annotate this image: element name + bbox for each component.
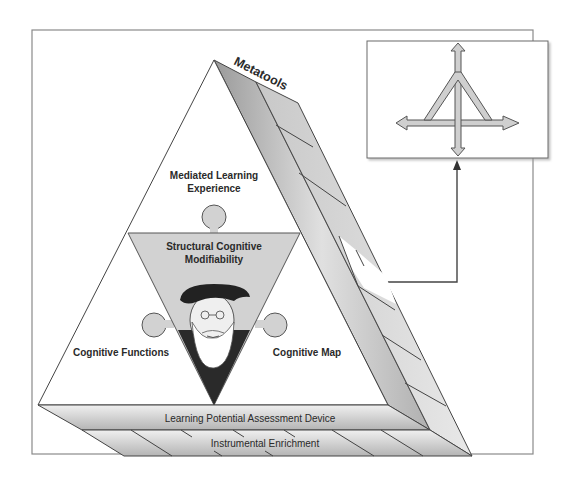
scm-label-line1: Structural Cognitive (166, 241, 262, 252)
cognitive-map-label: Cognitive Map (273, 347, 341, 358)
cognitive-functions-label: Cognitive Functions (73, 347, 170, 358)
mle-label-line1: Mediated Learning (170, 170, 258, 181)
scm-label-line2: Modifiability (185, 254, 244, 265)
mle-label-line2: Experience (187, 183, 241, 194)
diagram-canvas: Metatools (0, 0, 588, 497)
lpad-label: Learning Potential Assessment Device (165, 413, 336, 424)
ie-label: Instrumental Enrichment (211, 438, 320, 449)
